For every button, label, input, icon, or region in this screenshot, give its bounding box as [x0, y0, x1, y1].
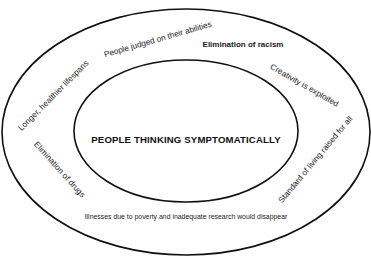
outcome-label-illnesses: Illnesses due to poverty and inadequate …	[85, 214, 288, 221]
ellipse-rings	[0, 0, 371, 266]
concentric-ellipse-diagram: PEOPLE THINKING SYMPTOMATICALLY Longer, …	[0, 0, 371, 266]
inner-ellipse	[74, 60, 298, 202]
outcome-label-racism: Elimination of racism	[203, 41, 284, 49]
center-label: PEOPLE THINKING SYMPTOMATICALLY	[91, 135, 280, 145]
